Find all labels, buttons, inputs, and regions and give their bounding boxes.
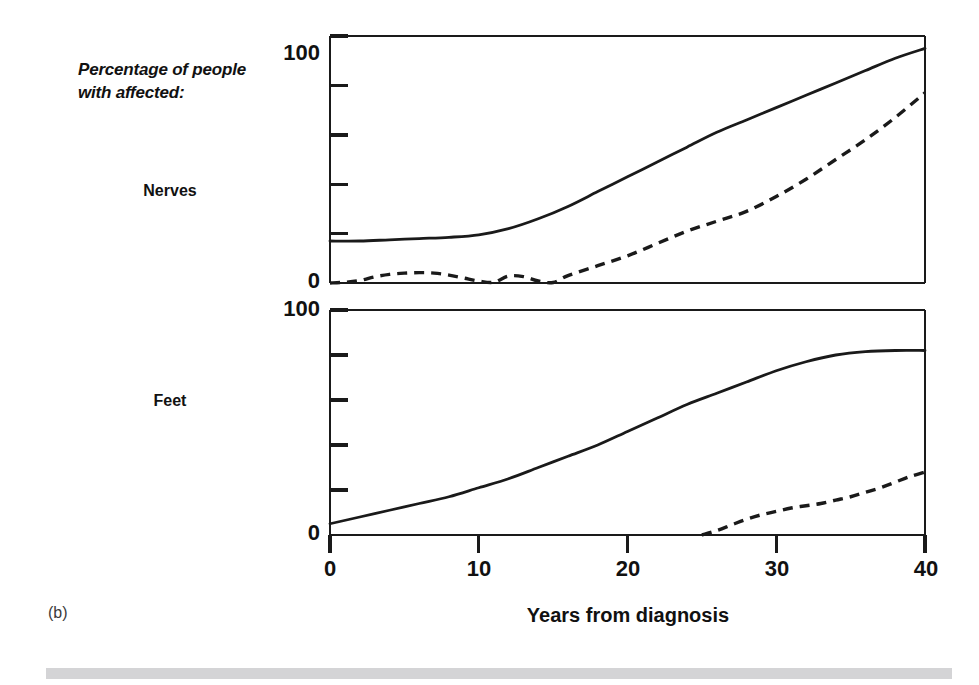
axis-tick-marks	[330, 36, 925, 553]
axis-frames	[330, 36, 925, 535]
chart-plot-area	[0, 0, 979, 685]
data-series-group	[330, 48, 925, 535]
bottom-decorative-rule	[46, 668, 952, 679]
figure-page: Percentage of people with affected: Nerv…	[0, 0, 979, 685]
